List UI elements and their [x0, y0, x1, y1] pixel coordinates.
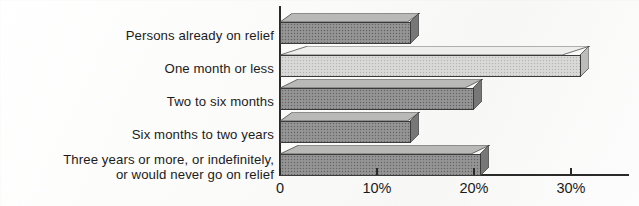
- bar-top-face: [280, 13, 420, 22]
- bar-side-face: [410, 112, 419, 143]
- bar-top-icon: [280, 112, 420, 121]
- bar-side-icon: [410, 13, 419, 44]
- bar-top-icon: [280, 145, 490, 154]
- bar-side-face: [473, 79, 482, 110]
- bar-side-face: [580, 46, 589, 77]
- x-axis-tick-label: 20%: [459, 180, 488, 197]
- bar-side-icon: [580, 46, 589, 77]
- bar-chart: Persons already on relief One month or l…: [0, 0, 639, 206]
- bar-front-face: [280, 22, 411, 44]
- bar-top-face: [280, 46, 590, 55]
- x-axis-tick: [376, 168, 378, 175]
- bar-side-icon: [480, 145, 489, 176]
- bar-group: [280, 46, 590, 77]
- bar-top-icon: [280, 13, 420, 22]
- bar-top-face: [280, 112, 420, 121]
- bar-group: [280, 79, 483, 110]
- bar-top-icon: [280, 46, 590, 55]
- bar-top-face: [280, 79, 483, 88]
- bar-group: [280, 13, 420, 44]
- x-axis-tick: [279, 168, 281, 175]
- bar-front-face: [280, 154, 481, 176]
- bar-group: [280, 112, 420, 143]
- bar-front-face: [280, 121, 411, 143]
- x-axis-tick-label: 10%: [362, 180, 391, 197]
- x-axis-tick: [570, 168, 572, 175]
- x-axis-tick-label: 30%: [556, 180, 585, 197]
- x-axis-tick-label: 0: [276, 180, 284, 197]
- bar-side-face: [480, 145, 489, 176]
- bar-top-icon: [280, 79, 483, 88]
- x-axis-tick: [473, 168, 475, 175]
- bar-side-icon: [410, 112, 419, 143]
- bar-side-face: [410, 13, 419, 44]
- bar-top-face: [280, 145, 490, 154]
- bar-group: [280, 145, 490, 176]
- bar-front-face: [280, 55, 581, 77]
- bar-front-face: [280, 88, 474, 110]
- bar-side-icon: [473, 79, 482, 110]
- plot-area: 0 10% 20% 30%: [0, 0, 639, 206]
